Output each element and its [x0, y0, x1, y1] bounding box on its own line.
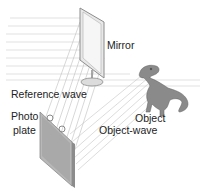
object-wave-label: Object-wave: [99, 124, 157, 136]
photo-plate-label-line2: plate: [13, 124, 36, 136]
object-label: Object: [135, 112, 165, 124]
reference-wave-label: Reference wave: [11, 88, 87, 100]
mirror-label: Mirror: [107, 39, 134, 51]
photo-plate-label-line1: Photo: [11, 110, 38, 122]
holography-diagram: Mirror Reference wave Object Object-wave…: [0, 0, 200, 188]
photo-plate: [40, 112, 75, 188]
mirror: [80, 8, 104, 86]
dinosaur-object: [139, 65, 188, 116]
